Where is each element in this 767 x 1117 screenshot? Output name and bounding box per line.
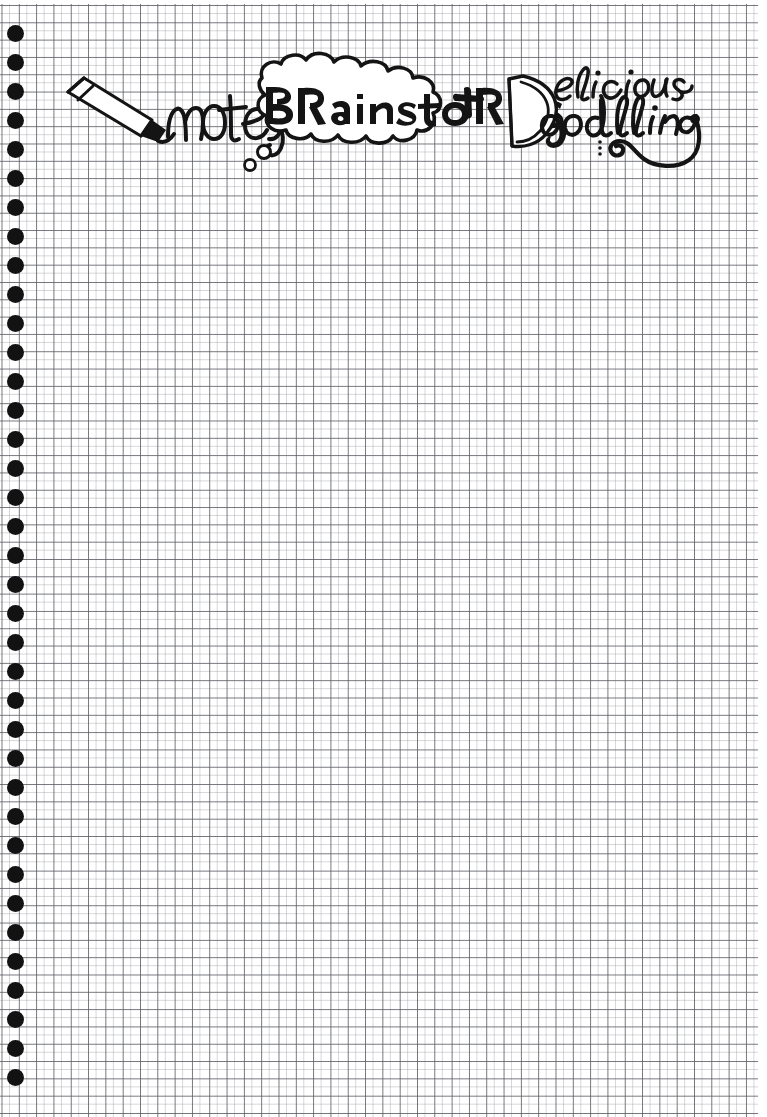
binding-hole xyxy=(7,25,24,42)
page-right-margin xyxy=(758,0,767,1117)
binding-hole xyxy=(7,228,24,245)
binding-hole xyxy=(7,750,24,767)
note-writing-area[interactable] xyxy=(40,200,750,1100)
binding-hole xyxy=(7,605,24,622)
binding-hole xyxy=(7,344,24,361)
binding-hole xyxy=(7,170,24,187)
binding-hole xyxy=(7,924,24,941)
binding-hole xyxy=(7,779,24,796)
binding-hole xyxy=(7,315,24,332)
binding-hole xyxy=(7,692,24,709)
binding-hole xyxy=(7,634,24,651)
binding-hole xyxy=(7,576,24,593)
binding-hole xyxy=(7,112,24,129)
binding-hole xyxy=(7,721,24,738)
binding-hole xyxy=(7,518,24,535)
binding-hole xyxy=(7,982,24,999)
binding-hole xyxy=(7,141,24,158)
binding-hole xyxy=(7,83,24,100)
binding-hole xyxy=(7,489,24,506)
binding-hole xyxy=(7,431,24,448)
binding-hole xyxy=(7,1069,24,1086)
binding-hole xyxy=(7,663,24,680)
binding-hole xyxy=(7,54,24,71)
binding-hole xyxy=(7,895,24,912)
spiral-binding xyxy=(0,0,40,1117)
binding-hole xyxy=(7,1011,24,1028)
binding-hole xyxy=(7,837,24,854)
binding-hole xyxy=(7,547,24,564)
binding-hole xyxy=(7,373,24,390)
binding-hole xyxy=(7,257,24,274)
binding-hole xyxy=(7,1040,24,1057)
notebook-page: notes BRainstoRMs + Delicious Doodling n… xyxy=(0,0,767,1117)
binding-hole xyxy=(7,402,24,419)
binding-hole xyxy=(7,808,24,825)
binding-hole xyxy=(7,199,24,216)
page-top-margin xyxy=(0,0,767,4)
binding-hole xyxy=(7,866,24,883)
binding-hole xyxy=(7,953,24,970)
binding-hole xyxy=(7,286,24,303)
binding-hole xyxy=(7,460,24,477)
